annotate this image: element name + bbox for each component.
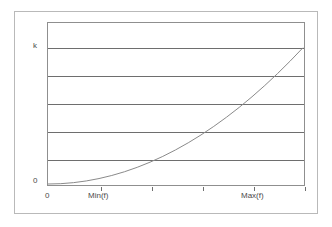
y-axis-label-origin: 0 xyxy=(33,177,37,185)
figure-container: k 0 0 Min(f) Max(f) xyxy=(0,0,332,227)
gridline xyxy=(48,76,304,77)
x-axis-tick xyxy=(305,187,306,191)
x-axis-label-origin: 0 xyxy=(45,192,49,200)
x-axis-tick xyxy=(254,187,255,191)
gridline xyxy=(48,160,304,161)
plot-area xyxy=(47,22,305,186)
gridline xyxy=(48,132,304,133)
gridline xyxy=(48,48,304,49)
x-axis-tick xyxy=(203,187,204,191)
y-axis-label-k: k xyxy=(33,42,37,50)
data-curve-path xyxy=(48,48,303,184)
x-axis-label-max: Max(f) xyxy=(241,192,264,200)
gridline xyxy=(48,104,304,105)
x-axis-tick xyxy=(152,187,153,191)
x-axis-label-min: Min(f) xyxy=(88,192,108,200)
x-axis-tick xyxy=(101,187,102,191)
